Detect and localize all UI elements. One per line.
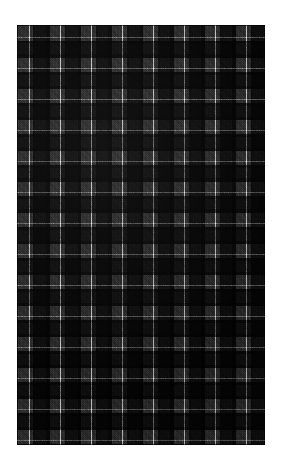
tartan-fabric-swatch <box>17 25 265 445</box>
weft-stripes-layer <box>17 25 265 445</box>
thread-texture-layer <box>17 25 265 445</box>
twill-texture-layer <box>17 25 265 445</box>
page-background <box>0 0 282 468</box>
horizontal-pinstripe-layer <box>17 25 265 445</box>
fabric-sheen-layer <box>17 25 265 445</box>
warp-stripes-layer <box>17 25 265 445</box>
vertical-pinstripe-layer <box>17 25 265 445</box>
